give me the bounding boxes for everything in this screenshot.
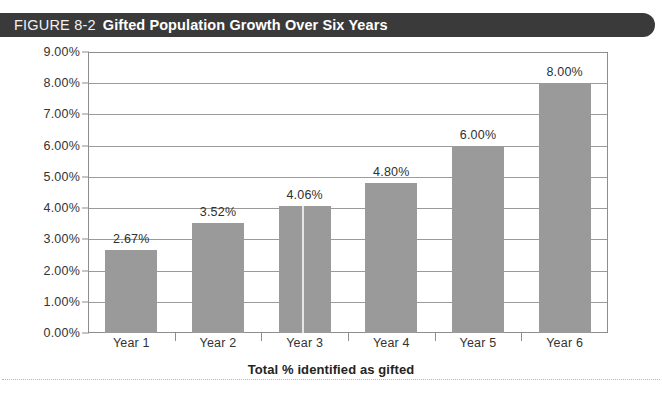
footer-divider xyxy=(2,379,660,381)
figure-number: FIGURE 8-2 xyxy=(14,17,96,33)
y-axis-tick-label: 2.00% xyxy=(6,264,80,278)
y-axis-tick-label: 5.00% xyxy=(6,170,80,184)
bar-value-label: 8.00% xyxy=(546,65,582,79)
bar[interactable] xyxy=(279,206,331,333)
x-axis-tick-label: Year 4 xyxy=(373,336,410,350)
bar-value-label: 3.52% xyxy=(200,205,236,219)
y-axis-tick-label: 9.00% xyxy=(6,45,80,59)
x-axis-tick-label: Year 5 xyxy=(460,336,497,350)
bar-group: 8.00% xyxy=(521,52,608,333)
bar-group: 6.00% xyxy=(435,52,522,333)
x-axis-tick-labels: Year 1Year 2Year 3Year 4Year 5Year 6 xyxy=(88,336,608,358)
y-axis-tick-label: 4.00% xyxy=(6,201,80,215)
bar-group: 4.80% xyxy=(348,52,435,333)
y-axis-tick-label: 7.00% xyxy=(6,107,80,121)
y-axis-tick-label: 1.00% xyxy=(6,295,80,309)
y-axis-tick-label: 3.00% xyxy=(6,232,80,246)
bar[interactable] xyxy=(192,223,244,333)
figure-header: FIGURE 8-2 Gifted Population Growth Over… xyxy=(0,13,655,37)
figure-title: Gifted Population Growth Over Six Years xyxy=(103,17,388,33)
x-axis-title: Total % identified as gifted xyxy=(0,362,662,377)
y-axis-tick-label: 0.00% xyxy=(6,326,80,340)
bar[interactable] xyxy=(539,83,591,333)
bar-value-label: 6.00% xyxy=(460,128,496,142)
bar-value-label: 4.80% xyxy=(373,165,409,179)
y-axis-tick-label: 8.00% xyxy=(6,76,80,90)
bars-layer: 2.67%3.52%4.06%4.80%6.00%8.00% xyxy=(88,52,608,333)
bar-value-label: 4.06% xyxy=(286,188,322,202)
y-axis-tick-label: 6.00% xyxy=(6,139,80,153)
x-axis-tick-label: Year 1 xyxy=(113,336,150,350)
x-axis-tick-label: Year 2 xyxy=(200,336,237,350)
x-axis-tick-label: Year 6 xyxy=(546,336,583,350)
bar-group: 2.67% xyxy=(88,52,175,333)
bar[interactable] xyxy=(365,183,417,333)
bar-group: 3.52% xyxy=(175,52,262,333)
x-axis-tick-label: Year 3 xyxy=(286,336,323,350)
bar[interactable] xyxy=(105,250,157,333)
bar-value-label: 2.67% xyxy=(113,232,149,246)
bar[interactable] xyxy=(452,146,504,333)
bar-chart: 0.00%1.00%2.00%3.00%4.00%5.00%6.00%7.00%… xyxy=(0,40,662,380)
bar-group: 4.06% xyxy=(261,52,348,333)
y-axis-tick-labels: 0.00%1.00%2.00%3.00%4.00%5.00%6.00%7.00%… xyxy=(0,52,80,333)
